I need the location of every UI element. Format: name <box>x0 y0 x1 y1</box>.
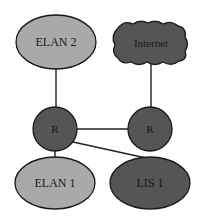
node-label: ELAN 2 <box>36 35 77 49</box>
node-label: R <box>146 123 154 135</box>
node-elan1: ELAN 1 <box>15 157 95 209</box>
node-router-left: R <box>33 107 77 151</box>
node-internet: Internet <box>113 21 187 64</box>
node-label: R <box>51 123 59 135</box>
node-label: LIS 1 <box>137 176 164 190</box>
node-elan2: ELAN 2 <box>16 15 96 69</box>
node-label: Internet <box>134 37 168 49</box>
node-router-right: R <box>128 107 172 151</box>
node-label: ELAN 1 <box>35 176 76 190</box>
network-diagram: ELAN 2 Internet R R ELAN 1 LIS 1 <box>0 0 203 221</box>
node-lis1: LIS 1 <box>110 157 190 209</box>
